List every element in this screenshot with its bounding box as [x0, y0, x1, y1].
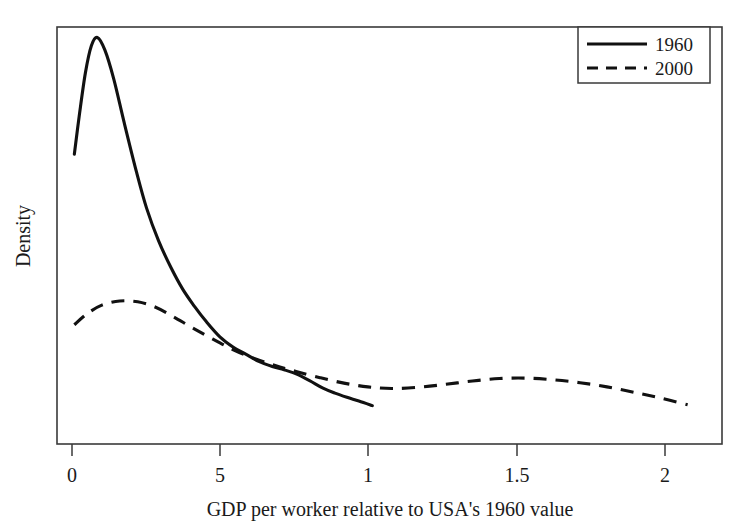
chart-canvas: 0 5 1 1.5 2 GDP per worker relative to U… [0, 0, 744, 530]
y-axis-title: Density [12, 205, 35, 267]
density-chart-figure: 0 5 1 1.5 2 GDP per worker relative to U… [0, 0, 744, 530]
series-line-1960 [74, 37, 372, 405]
x-tick-label-0: 0 [67, 464, 77, 486]
x-axis-title: GDP per worker relative to USA's 1960 va… [207, 498, 574, 521]
x-tick-label-1: 5 [215, 464, 225, 486]
x-tick-label-3: 1.5 [505, 464, 530, 486]
x-tick-label-2: 1 [363, 464, 373, 486]
x-axis-ticks [72, 444, 665, 456]
x-axis-tick-labels: 0 5 1 1.5 2 [67, 464, 670, 486]
legend-label-1960: 1960 [655, 34, 693, 55]
legend-label-2000: 2000 [655, 58, 693, 79]
series-line-2000 [74, 301, 687, 405]
legend: 1960 2000 [578, 27, 710, 83]
x-tick-label-4: 2 [660, 464, 670, 486]
